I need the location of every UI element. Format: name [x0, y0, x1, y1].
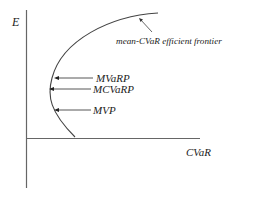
mvp-label: MVP [92, 104, 116, 116]
frontier-label: mean-CVaR efficient frontier [116, 36, 222, 46]
efficient-frontier-diagram: E CVaR mean-CVaR efficient frontier MVaR… [0, 0, 274, 199]
y-axis-label: E [11, 15, 20, 29]
mcvarp-label: MCVaRP [92, 83, 134, 95]
x-axis-label: CVaR [186, 146, 211, 158]
mvarp-arrowhead-icon [54, 76, 59, 80]
frontier-annotation-arrow [140, 19, 152, 32]
